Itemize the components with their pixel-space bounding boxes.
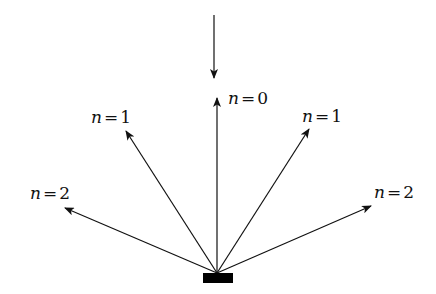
order-equals: =	[315, 106, 329, 126]
order-value: 1	[120, 107, 131, 127]
diffraction-diagram	[0, 0, 436, 294]
order-value: 0	[257, 88, 268, 108]
diffracted-beam-arrow-n1-right	[217, 129, 309, 273]
diffracted-beam-arrow-n2-right	[217, 206, 371, 273]
order-equals: =	[387, 182, 401, 202]
grating-block	[203, 273, 233, 283]
order-label-n0: n=0	[228, 88, 268, 108]
order-variable: n	[374, 182, 385, 202]
diffracted-beam-arrow-n2-left	[65, 208, 217, 273]
order-equals: =	[241, 88, 255, 108]
order-equals: =	[104, 107, 118, 127]
order-value: 2	[59, 183, 70, 203]
order-variable: n	[30, 183, 41, 203]
order-equals: =	[43, 183, 57, 203]
order-variable: n	[91, 107, 102, 127]
diffracted-beam-arrow-n1-left	[126, 131, 217, 273]
order-value: 1	[331, 106, 342, 126]
order-label-n1-left: n=1	[91, 107, 131, 127]
order-variable: n	[302, 106, 313, 126]
order-value: 2	[403, 182, 414, 202]
order-label-n1-right: n=1	[302, 106, 342, 126]
order-label-n2-right: n=2	[374, 182, 414, 202]
order-label-n2-left: n=2	[30, 183, 70, 203]
order-variable: n	[228, 88, 239, 108]
